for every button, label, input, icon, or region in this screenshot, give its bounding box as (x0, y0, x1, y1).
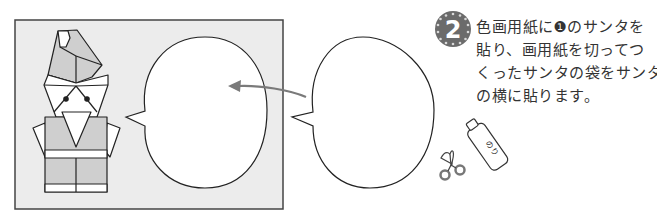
step-line: の横に貼ります。 (476, 85, 656, 108)
step-badge: 2 (435, 11, 471, 47)
speech-bubble-cutout (292, 37, 434, 188)
glue-bottle-icon: のり (462, 116, 510, 173)
step-line: 貼り、画用紙を切ってつ (476, 39, 656, 62)
scissors-icon (441, 151, 465, 180)
step-number: 2 (445, 16, 462, 44)
step-instructions: 色画用紙に❶のサンタを 貼り、画用紙を切ってつ くったサンタの袋をサンタ の横に… (476, 16, 656, 108)
step-line: くったサンタの袋をサンタ (476, 62, 656, 85)
step-line: 色画用紙に❶のサンタを (476, 16, 656, 39)
